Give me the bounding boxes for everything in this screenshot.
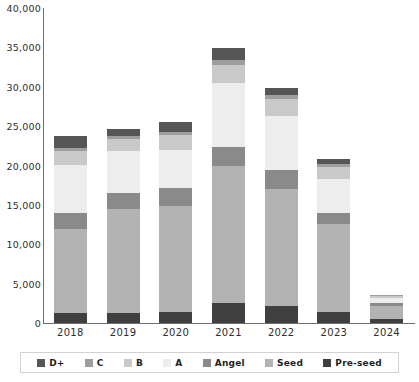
legend-item-angel[interactable]: Angel bbox=[203, 358, 245, 368]
y-axis-tick: 15,000 bbox=[1, 199, 41, 210]
legend-label: B bbox=[136, 358, 143, 368]
bar-column-2020[interactable] bbox=[159, 122, 192, 323]
bar-segment-pre-seed[interactable] bbox=[107, 313, 140, 323]
y-axis-tick: 40,000 bbox=[1, 3, 41, 14]
stacked-bar-chart: 05,00010,00015,00020,00025,00030,00035,0… bbox=[0, 0, 419, 382]
legend-label: Pre-seed bbox=[335, 358, 381, 368]
bar-column-2021[interactable] bbox=[212, 48, 245, 323]
bar-segment-dplus[interactable] bbox=[159, 122, 192, 131]
bar-segment-seed[interactable] bbox=[370, 306, 403, 319]
bar-segment-angel[interactable] bbox=[107, 193, 140, 209]
bar-segment-seed[interactable] bbox=[159, 206, 192, 312]
bar-segment-angel[interactable] bbox=[212, 147, 245, 167]
chart-legend: D+CBAAngelSeedPre-seed bbox=[20, 352, 399, 373]
bar-segment-pre-seed[interactable] bbox=[54, 313, 87, 323]
bar-segment-angel[interactable] bbox=[54, 213, 87, 229]
bar-segment-a[interactable] bbox=[54, 165, 87, 213]
bar-segment-pre-seed[interactable] bbox=[159, 312, 192, 323]
legend-swatch-icon bbox=[124, 359, 132, 367]
legend-label: C bbox=[97, 358, 104, 368]
y-axis-tick-labels: 05,00010,00015,00020,00025,00030,00035,0… bbox=[0, 0, 41, 382]
legend-item-seed[interactable]: Seed bbox=[265, 358, 303, 368]
bar-segment-dplus[interactable] bbox=[54, 136, 87, 149]
bar-segment-angel[interactable] bbox=[159, 188, 192, 205]
bar-series-container bbox=[44, 8, 413, 323]
x-axis-tick-2022: 2022 bbox=[259, 327, 304, 338]
bar-segment-angel[interactable] bbox=[265, 170, 298, 189]
legend-label: Angel bbox=[215, 358, 245, 368]
x-axis-tick-2019: 2019 bbox=[101, 327, 146, 338]
x-axis-tick-2023: 2023 bbox=[311, 327, 356, 338]
y-axis-tick: 0 bbox=[1, 318, 41, 329]
bar-segment-a[interactable] bbox=[317, 179, 350, 213]
bar-segment-pre-seed[interactable] bbox=[212, 303, 245, 323]
legend-swatch-icon bbox=[203, 359, 211, 367]
bar-segment-seed[interactable] bbox=[107, 209, 140, 313]
bar-segment-dplus[interactable] bbox=[107, 129, 140, 137]
y-axis-tick: 10,000 bbox=[1, 239, 41, 250]
bar-segment-seed[interactable] bbox=[212, 166, 245, 303]
legend-label: D+ bbox=[49, 358, 64, 368]
bar-segment-b[interactable] bbox=[107, 139, 140, 152]
y-axis-tick: 30,000 bbox=[1, 81, 41, 92]
y-axis-tick: 5,000 bbox=[1, 278, 41, 289]
bar-segment-b[interactable] bbox=[159, 135, 192, 150]
bar-segment-a[interactable] bbox=[159, 150, 192, 189]
bar-column-2024[interactable] bbox=[370, 295, 403, 323]
bar-segment-seed[interactable] bbox=[54, 229, 87, 313]
legend-swatch-icon bbox=[37, 359, 45, 367]
legend-label: A bbox=[175, 358, 182, 368]
legend-item-c[interactable]: C bbox=[85, 358, 104, 368]
legend-swatch-icon bbox=[323, 359, 331, 367]
x-axis-tick-labels: 2018201920202021202220232024 bbox=[44, 327, 413, 343]
bar-segment-b[interactable] bbox=[265, 99, 298, 116]
bar-segment-a[interactable] bbox=[212, 83, 245, 147]
bar-segment-seed[interactable] bbox=[317, 224, 350, 312]
bar-column-2019[interactable] bbox=[107, 129, 140, 323]
bar-segment-a[interactable] bbox=[107, 151, 140, 193]
bar-segment-pre-seed[interactable] bbox=[370, 319, 403, 323]
bar-column-2023[interactable] bbox=[317, 159, 350, 323]
legend-item-pre-seed[interactable]: Pre-seed bbox=[323, 358, 381, 368]
y-axis-tick: 20,000 bbox=[1, 160, 41, 171]
x-axis-tick-2024: 2024 bbox=[364, 327, 409, 338]
x-axis-line bbox=[43, 323, 415, 324]
bar-segment-dplus[interactable] bbox=[212, 48, 245, 60]
bar-column-2018[interactable] bbox=[54, 136, 87, 323]
y-axis-tick: 25,000 bbox=[1, 121, 41, 132]
bar-segment-b[interactable] bbox=[317, 167, 350, 179]
bar-segment-pre-seed[interactable] bbox=[265, 306, 298, 323]
legend-swatch-icon bbox=[265, 359, 273, 367]
legend-item-b[interactable]: B bbox=[124, 358, 143, 368]
bar-segment-dplus[interactable] bbox=[265, 88, 298, 95]
bar-column-2022[interactable] bbox=[265, 88, 298, 323]
bar-segment-pre-seed[interactable] bbox=[317, 312, 350, 323]
x-axis-tick-2018: 2018 bbox=[48, 327, 93, 338]
bar-segment-b[interactable] bbox=[54, 151, 87, 165]
bar-segment-a[interactable] bbox=[265, 116, 298, 170]
x-axis-tick-2021: 2021 bbox=[206, 327, 251, 338]
legend-swatch-icon bbox=[163, 359, 171, 367]
legend-label: Seed bbox=[277, 358, 303, 368]
bar-segment-seed[interactable] bbox=[265, 189, 298, 306]
bar-segment-b[interactable] bbox=[212, 65, 245, 83]
y-axis-tick: 35,000 bbox=[1, 42, 41, 53]
x-axis-tick-2020: 2020 bbox=[153, 327, 198, 338]
legend-item-dplus[interactable]: D+ bbox=[37, 358, 64, 368]
bar-segment-angel[interactable] bbox=[317, 213, 350, 224]
legend-swatch-icon bbox=[85, 359, 93, 367]
legend-item-a[interactable]: A bbox=[163, 358, 182, 368]
